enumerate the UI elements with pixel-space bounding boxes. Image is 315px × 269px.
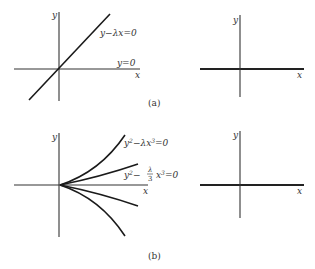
y-axis-label: y [232, 130, 239, 140]
panel-b-right-plot: y x [200, 130, 304, 218]
panel-a-right-plot: y x [200, 15, 304, 97]
x-axis-label: x [297, 186, 302, 196]
x-axis-label: x [297, 70, 302, 80]
figure-canvas: y x y−λx=0 y=0 y x (a) y x y2−λx3=0 y2− … [0, 0, 315, 269]
fraction-denominator: 3 [148, 175, 152, 183]
curve-label-line: y−λx=0 [99, 28, 137, 38]
y-axis-label: y [51, 132, 58, 142]
curve-label-axis: y=0 [116, 58, 136, 68]
curve-label-cubic-third-tail: x3=0 [156, 169, 178, 180]
curve-label-cubic: y2−λx3=0 [123, 137, 169, 148]
y-axis-label: y [51, 10, 58, 20]
x-axis-label: x [135, 70, 140, 80]
caption-a: (a) [148, 98, 160, 108]
x-axis-label: x [143, 186, 148, 196]
curve-lower-shallow [60, 185, 138, 206]
fraction-numerator: λ [147, 166, 152, 174]
y-axis-label: y [232, 15, 239, 25]
panel-b-left-plot: y x y2−λx3=0 y2− λ 3 x3=0 [14, 132, 178, 237]
caption-b: (b) [148, 251, 161, 261]
panel-a-left-plot: y x y−λx=0 y=0 [14, 10, 140, 101]
curve-label-cubic-third: y2− [123, 169, 140, 180]
line-y-lambda-x [29, 14, 110, 100]
